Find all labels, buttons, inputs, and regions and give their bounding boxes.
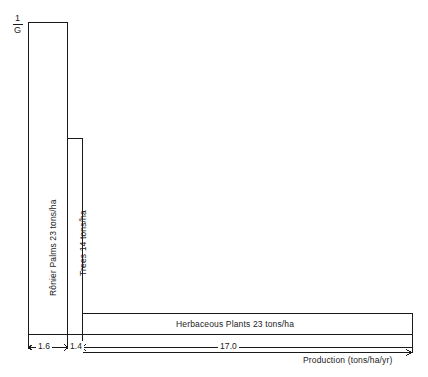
dimension-label-17-0: 17.0 <box>218 341 239 351</box>
chart-figure: 1 G Rônier Palms 23 tons/ha Trees 14 ton… <box>0 0 428 377</box>
dimension-label-1-4: 1.4 <box>68 341 84 351</box>
bar-label-ronier-palms: Rônier Palms 23 tons/ha <box>48 199 58 296</box>
x-axis-title: Production (tons/ha/yr) <box>303 355 392 365</box>
y-axis-label-denominator: G <box>9 26 26 35</box>
bar-label-herbaceous-plants: Herbaceous Plants 23 tons/ha <box>176 319 294 329</box>
y-axis-label-numerator: 1 <box>9 14 26 23</box>
bar-label-trees: Trees 14 tons/ha <box>78 210 88 276</box>
y-axis-label: 1 G <box>9 14 26 36</box>
dimension-label-1-6: 1.6 <box>36 341 52 351</box>
